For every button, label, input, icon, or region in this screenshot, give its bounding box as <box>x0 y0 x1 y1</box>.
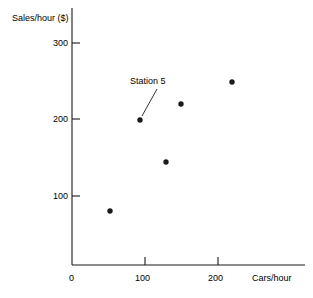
data-point <box>178 101 183 106</box>
x-axis-tick-label-200: 200 <box>208 273 223 283</box>
y-axis-tick-label-300: 300 <box>53 38 68 48</box>
x-axis-title: Cars/hour <box>252 273 292 283</box>
y-axis-tick-label-200: 200 <box>53 114 68 124</box>
y-axis-tick-label-100: 100 <box>53 191 68 201</box>
data-point <box>107 208 112 213</box>
data-point <box>163 159 168 164</box>
annotation-label-station-5: Station 5 <box>130 76 166 86</box>
annotation-leader-line <box>142 89 157 116</box>
plot-area <box>0 0 313 298</box>
data-point <box>229 79 234 84</box>
scatter-chart: Sales/hour ($) 300 200 100 0 100 200 Car… <box>0 0 313 298</box>
x-axis-tick-label-100: 100 <box>135 273 150 283</box>
x-axis-tick-label-0: 0 <box>69 273 74 283</box>
y-axis-title: Sales/hour ($) <box>12 13 69 23</box>
data-point-station-5 <box>137 117 142 122</box>
